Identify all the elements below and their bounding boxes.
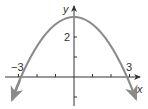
x-axis-label: x	[136, 83, 143, 95]
parabola-graph: y x −3 3 2	[0, 0, 148, 109]
y-tick-label-2: 2	[64, 31, 70, 43]
x-tick-label-3: 3	[126, 61, 132, 73]
x-tick-label-neg3: −3	[11, 61, 24, 73]
parabola-left-arrow	[12, 80, 20, 100]
y-axis-label: y	[62, 3, 70, 15]
